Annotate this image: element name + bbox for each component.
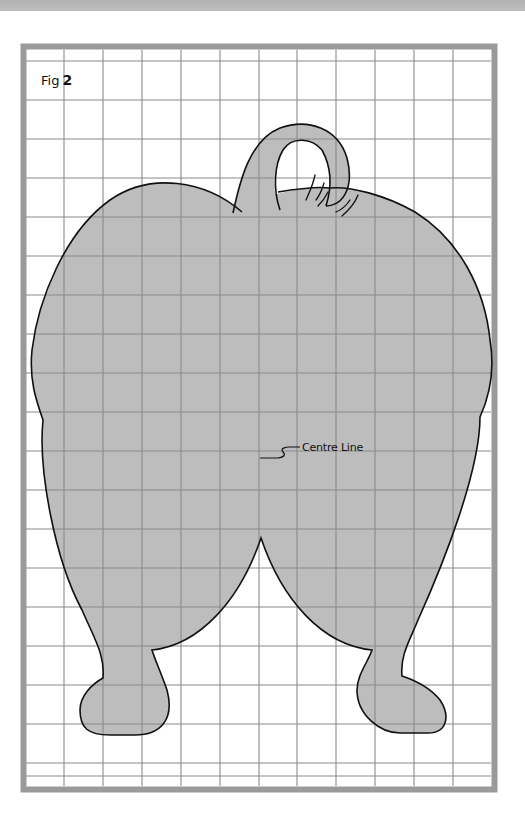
centre-line-label: Centre Line: [302, 441, 363, 454]
pattern-diagram: [0, 0, 525, 838]
figure-number: 2: [62, 72, 72, 88]
figure-label: Fig2: [41, 72, 72, 88]
figure-label-prefix: Fig: [41, 73, 59, 88]
